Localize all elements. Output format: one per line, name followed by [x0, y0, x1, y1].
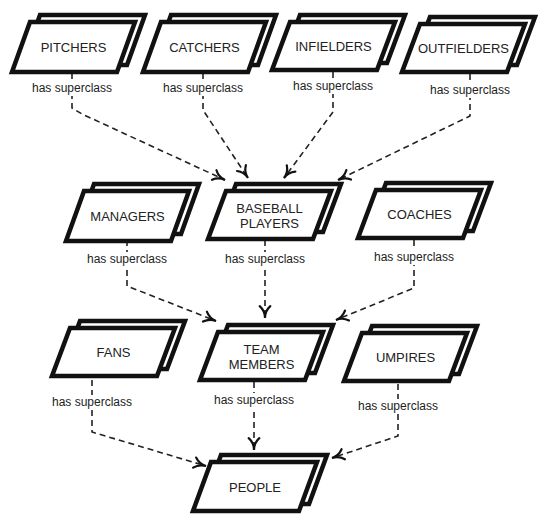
class-hierarchy-diagram: has superclasshas superclasshas supercla… — [0, 0, 552, 526]
node-label: TEAM — [243, 342, 279, 357]
arrowhead-icon — [193, 458, 206, 468]
edge-label: has superclass — [214, 393, 294, 407]
edge-team-members-to-people: has superclass — [210, 382, 298, 450]
edge-umpires-to-people: has superclass — [332, 384, 442, 459]
arrowhead-icon — [203, 312, 216, 322]
edge-managers-to-team-members: has superclass — [83, 240, 216, 322]
node-label: BASEBALL — [236, 201, 303, 216]
arrowhead-icon — [332, 449, 345, 459]
edge-catchers-to-baseball-players: has superclass — [159, 73, 248, 178]
edges-layer: has superclasshas superclasshas supercla… — [28, 72, 514, 468]
edge-label: has superclass — [430, 83, 510, 97]
class-node-team-members: TEAMMEMBERS — [200, 325, 333, 380]
class-node-infielders: INFIELDERS — [272, 15, 405, 70]
dashed-connector — [332, 384, 398, 458]
edge-label: has superclass — [293, 79, 373, 93]
arrowhead-icon — [338, 170, 351, 180]
class-node-umpires: UMPIRES — [344, 326, 477, 381]
class-node-managers: MANAGERS — [66, 184, 199, 241]
diagram-canvas: has superclasshas superclasshas supercla… — [0, 0, 552, 526]
edge-fans-to-people: has superclass — [48, 380, 206, 468]
class-node-outfielders: OUTFIELDERS — [402, 17, 535, 72]
arrowhead-icon — [249, 438, 260, 450]
node-label: PITCHERS — [41, 40, 107, 55]
arrowhead-icon — [260, 306, 271, 318]
node-label: COACHES — [387, 207, 452, 222]
edge-label: has superclass — [52, 395, 132, 409]
edge-baseball-players-to-team-members: has superclass — [221, 240, 309, 318]
edge-label: has superclass — [225, 252, 305, 266]
node-label: UMPIRES — [376, 350, 436, 365]
edge-label: has superclass — [358, 399, 438, 413]
class-node-coaches: COACHES — [358, 183, 491, 238]
edge-label: has superclass — [163, 81, 243, 95]
node-label: PEOPLE — [229, 480, 281, 495]
node-label: MANAGERS — [90, 209, 165, 224]
node-label: CATCHERS — [169, 40, 240, 55]
edge-label: has superclass — [374, 250, 454, 264]
class-node-pitchers: PITCHERS — [12, 15, 145, 72]
node-label: INFIELDERS — [295, 39, 372, 54]
edge-coaches-to-team-members: has superclass — [336, 240, 458, 320]
class-node-baseball-players: BASEBALLPLAYERS — [208, 184, 341, 239]
class-node-catchers: CATCHERS — [143, 15, 276, 72]
node-label: MEMBERS — [229, 357, 295, 372]
edge-label: has superclass — [87, 252, 167, 266]
node-label: PLAYERS — [240, 216, 299, 231]
arrowhead-icon — [237, 165, 248, 178]
node-label: OUTFIELDERS — [418, 41, 509, 56]
edge-label: has superclass — [32, 81, 112, 95]
class-node-people: PEOPLE — [193, 455, 327, 511]
node-label: FANS — [97, 345, 131, 360]
class-node-fans: FANS — [52, 321, 185, 376]
dashed-connector — [92, 380, 206, 466]
edge-infielders-to-baseball-players: has superclass — [284, 72, 377, 178]
